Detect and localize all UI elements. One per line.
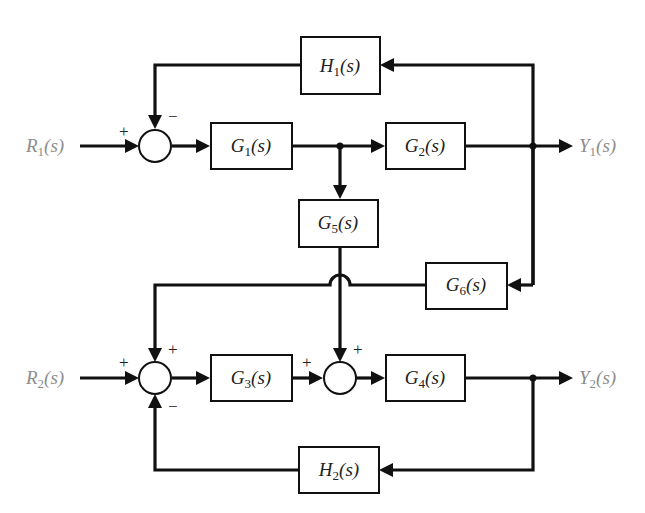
arrowhead-icon [148, 348, 162, 362]
arrowhead-icon [125, 371, 139, 385]
svg-text:G3(s): G3(s) [231, 367, 271, 391]
wire-g6-s2 [155, 275, 425, 351]
sign-s1-top: − [168, 107, 178, 126]
summing-junction-s2 [139, 362, 171, 394]
arrowhead-icon [559, 139, 573, 153]
block-g4: G4(s) [386, 355, 465, 401]
arrowhead-icon [379, 463, 393, 477]
block-h1: H1(s) [301, 37, 380, 94]
svg-text:G2(s): G2(s) [405, 135, 445, 159]
svg-text:G4(s): G4(s) [405, 367, 445, 391]
output-y1-label: Y1(s) [579, 135, 616, 159]
wire-y1-h1 [392, 65, 533, 285]
arrowhead-icon [371, 371, 385, 385]
block-g3: G3(s) [211, 355, 292, 401]
output-y2-label: Y2(s) [579, 367, 616, 391]
arrowhead-icon [333, 185, 347, 199]
block-g2: G2(s) [386, 123, 465, 169]
svg-text:G6(s): G6(s) [446, 274, 486, 298]
branch-point [337, 143, 344, 150]
arrowhead-icon [196, 139, 210, 153]
sign-s2-bottom: − [168, 397, 178, 416]
arrowhead-icon [309, 371, 323, 385]
svg-text:G1(s): G1(s) [231, 135, 271, 159]
svg-text:H1(s): H1(s) [319, 55, 360, 79]
block-g6: G6(s) [426, 263, 507, 309]
sign-s2-left: + [119, 353, 129, 372]
arrowhead-icon [148, 115, 162, 129]
arrowhead-icon [507, 278, 521, 292]
arrowhead-icon [333, 348, 347, 362]
arrowhead-icon [371, 139, 385, 153]
svg-text:G5(s): G5(s) [318, 212, 358, 236]
input-r2-label: R2(s) [25, 367, 64, 391]
arrowhead-icon [196, 371, 210, 385]
sign-s1-left: + [119, 122, 129, 141]
arrowhead-icon [125, 139, 139, 153]
arrowhead-icon [559, 371, 573, 385]
summing-junction-s1 [139, 130, 171, 162]
block-diagram: + − + + − + + H1(s) G1(s) G2(s) G5(s) G6… [0, 0, 645, 513]
summing-junction-s3 [324, 362, 356, 394]
block-h2: H2(s) [299, 447, 379, 493]
arrowhead-icon [380, 58, 394, 72]
sign-s3-left: + [302, 353, 312, 372]
block-g5: G5(s) [299, 200, 378, 247]
block-g1: G1(s) [211, 123, 292, 169]
branch-point [530, 375, 537, 382]
branch-point [530, 143, 537, 150]
arrowhead-icon [148, 394, 162, 408]
sign-s3-top: + [353, 340, 363, 359]
svg-text:H2(s): H2(s) [318, 459, 359, 483]
sign-s2-top: + [168, 340, 178, 359]
input-r1-label: R1(s) [25, 135, 64, 159]
